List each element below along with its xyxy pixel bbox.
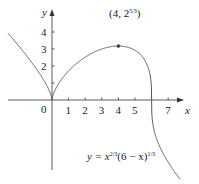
x-tick-label: 7 <box>165 104 171 116</box>
chart: 123457 234 y x 0 (4, 25/3) y = x2/3(6 − … <box>0 0 199 184</box>
x-tick-label: 2 <box>82 104 88 116</box>
x-axis-arrow-icon <box>177 98 184 103</box>
max-point-marker <box>117 44 121 48</box>
y-axis-label: y <box>41 6 47 18</box>
y-tick-label: 4 <box>41 26 47 38</box>
equation-label: y = x2/3(6 − x)1/3 <box>86 150 155 163</box>
max-point-label: (4, 25/3) <box>109 7 141 20</box>
y-ticks: 234 <box>41 26 55 83</box>
x-tick-label: 1 <box>66 104 72 116</box>
x-tick-label: 4 <box>115 104 121 116</box>
x-axis-label: x <box>184 104 190 116</box>
y-axis-arrow-icon <box>50 9 55 16</box>
origin-label: 0 <box>41 103 47 115</box>
y-tick-label: 2 <box>41 60 47 72</box>
chart-svg: 123457 234 y x 0 (4, 25/3) y = x2/3(6 − … <box>0 0 199 184</box>
x-tick-label: 5 <box>132 104 138 116</box>
x-tick-label: 3 <box>99 104 105 116</box>
y-tick-label: 3 <box>41 43 47 55</box>
